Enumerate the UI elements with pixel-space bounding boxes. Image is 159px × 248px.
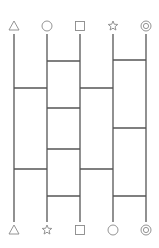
circle-icon	[42, 21, 52, 31]
star-icon	[108, 21, 118, 30]
double-circle-icon	[141, 21, 151, 31]
triangle-icon	[9, 21, 19, 30]
star-icon	[42, 225, 52, 234]
square-icon	[76, 22, 85, 31]
top-symbols	[9, 21, 151, 31]
ladder-diagram	[0, 0, 159, 248]
triangle-icon	[9, 225, 19, 234]
double-circle-icon	[141, 225, 151, 235]
circle-icon	[108, 225, 118, 235]
bottom-symbols	[9, 225, 151, 235]
square-icon	[76, 226, 85, 235]
